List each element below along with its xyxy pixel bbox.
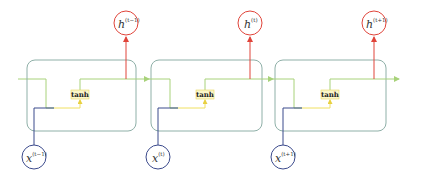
tanh-label: tanh bbox=[71, 90, 89, 99]
rnn-diagram: tanh h(t−1) x(t−1) tanh h(t) x(t) tanh bbox=[0, 0, 423, 184]
tanh-out-path bbox=[80, 79, 126, 90]
input-sup: (t−1) bbox=[32, 151, 47, 157]
tanh-out-path bbox=[205, 79, 250, 90]
input-path bbox=[158, 108, 178, 145]
hidden-path bbox=[46, 79, 54, 108]
rnn-cell-3: tanh h(t+1) x(t+1) bbox=[271, 11, 399, 169]
hidden-path bbox=[149, 79, 178, 108]
input-sup: (t) bbox=[158, 151, 165, 157]
output-sup: (t−1) bbox=[125, 17, 140, 23]
rnn-cell-2: tanh h(t) x(t) bbox=[146, 11, 273, 169]
output-sup: (t+1) bbox=[373, 17, 388, 23]
input-sup: (t+1) bbox=[281, 151, 296, 157]
combined-path bbox=[178, 100, 205, 108]
hidden-path bbox=[273, 79, 302, 108]
tanh-label: tanh bbox=[321, 90, 339, 99]
output-base: h bbox=[366, 18, 373, 31]
output-base: h bbox=[244, 18, 251, 31]
input-path bbox=[283, 108, 302, 145]
rnn-cell-1: tanh h(t−1) x(t−1) bbox=[22, 11, 149, 169]
combined-path bbox=[302, 100, 330, 108]
output-sup: (t) bbox=[251, 17, 258, 23]
tanh-label: tanh bbox=[196, 90, 214, 99]
combined-path bbox=[54, 100, 80, 108]
tanh-out-path bbox=[330, 79, 374, 90]
input-path bbox=[34, 108, 54, 145]
output-base: h bbox=[118, 18, 125, 31]
